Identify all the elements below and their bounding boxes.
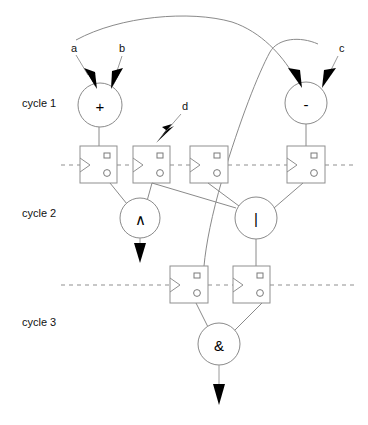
wire-ff5-to-and xyxy=(196,303,208,327)
ff-3-body xyxy=(190,146,228,183)
wire-ff2-to-xor xyxy=(147,183,152,201)
ff-2-q-port xyxy=(157,170,164,177)
signal-label-b: b xyxy=(119,42,125,54)
diagram-canvas: + - xyxy=(0,0,368,425)
output-arrow-and xyxy=(213,365,225,405)
ff-5-body xyxy=(170,266,208,303)
ff-4-q-port xyxy=(311,170,318,177)
wire-ff1-to-xor xyxy=(110,183,127,204)
ff-5-q-port xyxy=(194,290,201,297)
xor-output-arrowhead xyxy=(134,243,146,263)
wire-ff3-to-or xyxy=(208,183,239,206)
register-ff-5 xyxy=(170,266,208,303)
ff-1-q-port xyxy=(104,170,111,177)
operator-sub: - xyxy=(285,82,327,146)
cycle-label-3: cycle 3 xyxy=(22,316,56,328)
op-add-glyph: + xyxy=(96,98,105,115)
ff-4-d-port xyxy=(311,153,317,158)
input-arrow-a xyxy=(76,55,97,89)
cycle-label-2: cycle 2 xyxy=(22,207,56,219)
and-output-arrowhead xyxy=(213,384,225,405)
input-d-line xyxy=(168,114,181,129)
wire-ff2-to-or xyxy=(152,183,236,208)
ff-2-body xyxy=(133,146,170,183)
register-ff-3 xyxy=(190,146,228,183)
ff-6-body xyxy=(233,266,270,303)
ff-6-d-port xyxy=(257,273,263,278)
register-ff-6 xyxy=(233,266,270,303)
op-xor-glyph: ∧ xyxy=(135,211,146,228)
ff-6-q-port xyxy=(257,290,264,297)
op-sub-glyph: - xyxy=(304,96,309,113)
op-and-glyph: & xyxy=(214,337,224,354)
input-a-line xyxy=(76,55,88,75)
input-arrow-d xyxy=(156,114,181,143)
ff-3-d-port xyxy=(214,153,220,158)
long-interconnect-wires xyxy=(76,16,318,266)
op-or-glyph: | xyxy=(254,210,258,227)
wire-a-to-sub xyxy=(76,16,293,74)
wire-ff4-to-or xyxy=(274,183,303,208)
output-arrow-xor xyxy=(134,238,146,263)
operator-xor: ∧ xyxy=(120,198,160,238)
operator-add: + xyxy=(78,83,122,146)
input-arrow-b xyxy=(111,56,123,89)
signal-label-d: d xyxy=(182,100,188,112)
input-b-arrowhead-fill xyxy=(111,68,123,89)
ff-5-d-port xyxy=(194,273,200,278)
operator-and: & xyxy=(198,323,240,365)
input-arrow-c xyxy=(322,56,338,88)
signal-label-c: c xyxy=(339,42,345,54)
ff-1-body xyxy=(80,146,117,183)
ff-4-body xyxy=(287,146,325,183)
pipeline-diagram: + - xyxy=(0,0,368,425)
ff-2-d-port xyxy=(157,153,163,158)
register-ff-4 xyxy=(287,146,325,183)
signal-label-a: a xyxy=(71,42,78,54)
operator-or: | xyxy=(235,197,277,266)
register-ff-1 xyxy=(80,146,117,183)
register-ff-2 xyxy=(133,146,170,183)
cycle-labels: cycle 1 cycle 2 cycle 3 xyxy=(22,97,56,328)
wire-ff6-to-and xyxy=(233,303,262,332)
ff-1-d-port xyxy=(104,153,110,158)
cycle-label-1: cycle 1 xyxy=(22,97,56,109)
ff-3-q-port xyxy=(214,170,221,177)
input-c-arrowhead xyxy=(322,68,336,88)
